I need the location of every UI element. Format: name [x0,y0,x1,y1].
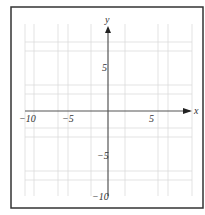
y-tick-5: 5 [102,62,107,73]
x-axis-label: x [193,105,199,116]
chart-border [11,7,203,208]
y-tick-minus10: −10 [92,191,109,202]
x-tick-minus5: −5 [62,113,74,124]
x-tick-minus10: −10 [19,113,36,124]
x-tick-5: 5 [149,113,154,124]
coordinate-plane: x y −10 −5 5 5 −5 −10 [0,0,205,215]
y-axis-label: y [104,14,110,25]
y-tick-minus5: −5 [97,150,109,161]
